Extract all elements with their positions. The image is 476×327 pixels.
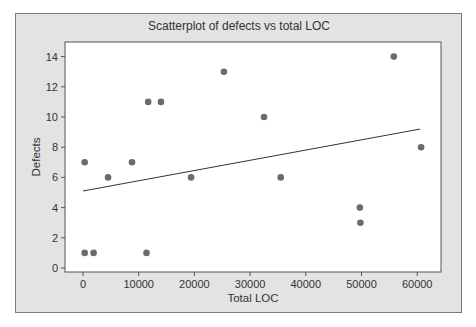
y-tick-label: 10 xyxy=(46,111,58,123)
data-point xyxy=(145,99,152,106)
y-tick-label: 8 xyxy=(52,141,58,153)
y-tick-label: 2 xyxy=(52,232,58,244)
data-point xyxy=(143,250,150,257)
plot-area xyxy=(65,42,441,272)
data-point xyxy=(81,250,88,257)
y-axis-title: Defects xyxy=(30,137,42,176)
x-tick-label: 40000 xyxy=(291,278,322,290)
data-point xyxy=(81,159,88,166)
data-point xyxy=(158,99,165,106)
data-point xyxy=(90,250,97,257)
x-tick-label: 10000 xyxy=(123,278,154,290)
y-tick-label: 4 xyxy=(52,202,58,214)
data-point xyxy=(418,144,425,151)
y-tick-label: 12 xyxy=(46,81,58,93)
chart-title: Scatterplot of defects vs total LOC xyxy=(148,19,330,33)
y-tick-label: 6 xyxy=(52,171,58,183)
data-point xyxy=(105,174,112,181)
data-point xyxy=(129,159,136,166)
x-tick-label: 20000 xyxy=(179,278,210,290)
x-axis: 0100002000030000400005000060000 xyxy=(80,272,433,290)
y-tick-label: 0 xyxy=(52,262,58,274)
data-point xyxy=(221,68,228,75)
y-tick-label: 14 xyxy=(46,51,58,63)
x-tick-label: 50000 xyxy=(346,278,377,290)
data-point xyxy=(261,114,268,121)
data-point xyxy=(391,53,398,60)
x-tick-label: 0 xyxy=(80,278,86,290)
scatter-chart: Scatterplot of defects vs total LOC 0246… xyxy=(0,0,476,327)
data-point xyxy=(357,204,364,211)
data-point xyxy=(277,174,284,181)
x-tick-label: 30000 xyxy=(235,278,266,290)
y-axis: 02468101214 xyxy=(46,51,65,274)
data-point xyxy=(357,219,364,226)
x-tick-label: 60000 xyxy=(402,278,433,290)
x-axis-title: Total LOC xyxy=(227,292,278,304)
data-point xyxy=(188,174,195,181)
